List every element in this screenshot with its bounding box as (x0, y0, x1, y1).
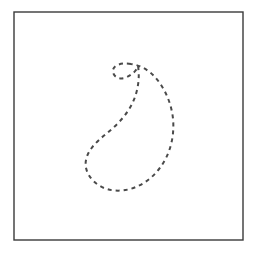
figure-canvas (0, 0, 258, 254)
square-border (14, 12, 243, 240)
figure-svg (0, 0, 258, 254)
dashed-paisley-curve (86, 63, 174, 190)
